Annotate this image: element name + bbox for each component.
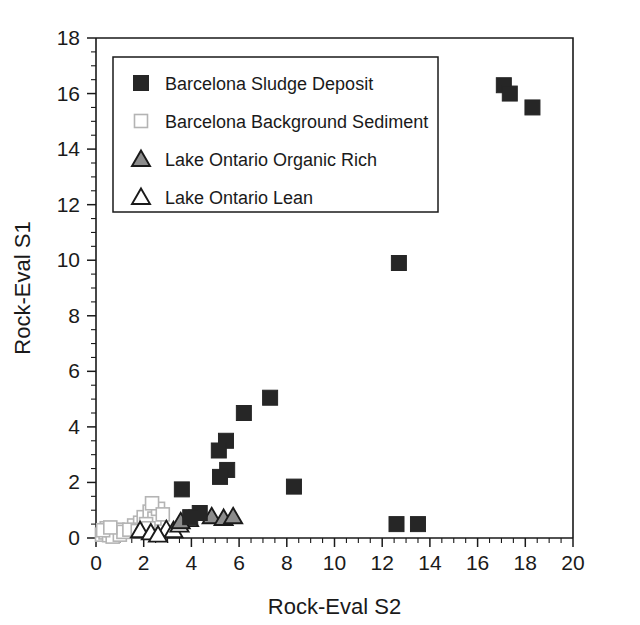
data-point [263, 390, 278, 405]
legend-item-label: Barcelona Background Sediment [165, 112, 428, 132]
x-tick-label: 14 [418, 551, 442, 574]
y-tick-label: 6 [68, 359, 80, 382]
x-tick-label: 0 [90, 551, 102, 574]
x-tick-label: 8 [281, 551, 293, 574]
scatter-plot-figure: 02468101214161820024681012141618Rock-Eva… [0, 0, 640, 625]
data-point [174, 482, 189, 497]
x-axis-title: Rock-Eval S2 [268, 594, 401, 619]
data-point [389, 517, 404, 532]
y-tick-label: 4 [68, 415, 80, 438]
plot-svg: 02468101214161820024681012141618Rock-Eva… [0, 0, 640, 625]
y-tick-label: 10 [57, 248, 80, 271]
data-point [183, 510, 198, 525]
y-tick-label: 12 [57, 193, 80, 216]
y-axis-title: Rock-Eval S1 [10, 221, 35, 354]
data-point [525, 100, 540, 115]
legend-item-0[interactable]: Barcelona Sludge Deposit [134, 74, 374, 94]
y-tick-label: 8 [68, 304, 80, 327]
y-tick-label: 0 [68, 526, 80, 549]
legend-marker-open-square-icon [135, 115, 148, 128]
y-tick-label: 16 [57, 82, 80, 105]
data-point [104, 521, 117, 534]
x-tick-label: 20 [561, 551, 584, 574]
data-point [391, 256, 406, 271]
data-point [502, 86, 517, 101]
data-point [236, 406, 251, 421]
x-tick-label: 18 [514, 551, 537, 574]
y-tick-label: 2 [68, 470, 80, 493]
legend-item-1[interactable]: Barcelona Background Sediment [135, 112, 429, 132]
x-tick-label: 4 [186, 551, 198, 574]
data-point [213, 469, 228, 484]
data-point [211, 443, 226, 458]
legend-item-label: Lake Ontario Lean [165, 188, 313, 208]
legend-marker-filled-square-icon [134, 76, 149, 91]
legend-item-label: Lake Ontario Organic Rich [165, 150, 377, 170]
data-point [410, 517, 425, 532]
y-tick-label: 18 [57, 26, 80, 49]
x-tick-label: 2 [138, 551, 150, 574]
legend-item-2[interactable]: Lake Ontario Organic Rich [132, 150, 377, 170]
data-point [286, 479, 301, 494]
x-tick-label: 10 [323, 551, 346, 574]
data-point [156, 508, 169, 521]
x-tick-label: 6 [233, 551, 245, 574]
y-tick-label: 14 [57, 137, 81, 160]
x-tick-label: 12 [371, 551, 394, 574]
legend-item-label: Barcelona Sludge Deposit [165, 74, 373, 94]
legend: Barcelona Sludge DepositBarcelona Backgr… [113, 57, 438, 212]
x-tick-label: 16 [466, 551, 489, 574]
